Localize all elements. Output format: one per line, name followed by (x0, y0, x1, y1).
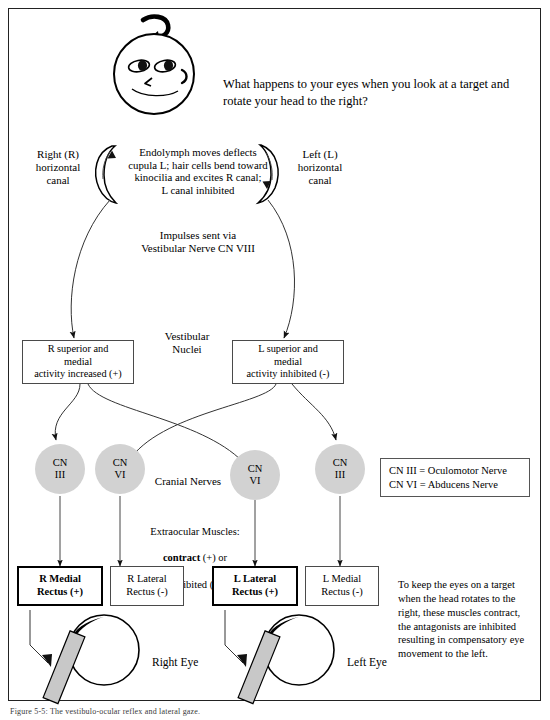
muscle-line1: R Medial (39, 573, 81, 584)
cn-circle-line1: CN (113, 457, 128, 468)
cn-circle-text: CN VI (248, 463, 263, 487)
extraocular-muscles-contract-line: contract (+) or (135, 551, 255, 564)
cranial-nerve-circle-l-cn3: CN III (315, 444, 365, 494)
muscle-box-text: L Lateral Rectus (+) (232, 573, 278, 598)
extraocular-muscles-title: Extraocular Muscles: (135, 525, 255, 538)
left-vestibular-nucleus-box: L superior and medial activity inhibited… (232, 340, 344, 384)
cranial-nerve-legend-box: CN III = Oculomotor Nerve CN VI = Abduce… (380, 458, 530, 497)
cn-circle-text: CN III (333, 457, 348, 481)
muscle-box-text: R Medial Rectus (+) (37, 573, 83, 598)
muscle-box-r-lateral-rectus: R Lateral Rectus (-) (110, 566, 184, 606)
cn-circle-line2: III (55, 469, 66, 480)
muscle-line1: R Lateral (127, 573, 166, 584)
right-vestibular-nucleus-box: R superior and medial activity increased… (22, 340, 134, 384)
legend-line-cn6: CN VI = Abducens Nerve (389, 478, 521, 492)
endolymph-description: Endolymph moves deflects cupula L; hair … (118, 146, 278, 197)
cranial-nerves-label: Cranial Nerves (145, 475, 231, 488)
right-canal-label: Right (R) horizontal canal (18, 148, 98, 187)
left-vestibular-nucleus-label: L superior and medial activity inhibited… (247, 343, 330, 380)
muscle-box-text: L Medial Rectus (-) (321, 573, 363, 598)
muscle-line2: Rectus (-) (126, 586, 168, 597)
right-vestibular-nucleus-label: R superior and medial activity increased… (34, 343, 122, 380)
vestibular-nuclei-label: Vestibular Nuclei (148, 330, 226, 356)
muscle-line1: L Lateral (234, 573, 276, 584)
question-text: What happens to your eyes when you look … (223, 76, 523, 110)
cranial-nerve-circle-l-cn6: CN VI (230, 450, 280, 500)
summary-text: To keep the eyes on a target when the he… (398, 578, 530, 661)
right-eye-label: Right Eye (152, 656, 198, 670)
muscle-box-text: R Lateral Rectus (-) (126, 573, 168, 598)
cn-circle-text: CN VI (113, 457, 128, 481)
cranial-nerve-circle-r-cn6: CN VI (95, 444, 145, 494)
muscle-line2: Rectus (-) (321, 586, 363, 597)
cn-circle-line1: CN (333, 457, 348, 468)
contract-suffix: (+) or (200, 552, 227, 563)
figure-page: What happens to your eyes when you look … (0, 0, 550, 720)
cn-circle-line1: CN (53, 457, 68, 468)
contract-bold: contract (163, 552, 200, 563)
muscle-line1: L Medial (323, 573, 361, 584)
muscle-box-r-medial-rectus: R Medial Rectus (+) (17, 566, 103, 606)
cn-circle-line2: VI (114, 469, 125, 480)
muscle-line2: Rectus (+) (232, 586, 278, 597)
figure-caption: Figure 5-5: The vestibulo-ocular reflex … (10, 707, 200, 716)
muscle-line2: Rectus (+) (37, 586, 83, 597)
cn-circle-line1: CN (248, 463, 263, 474)
cn-circle-line2: III (335, 469, 346, 480)
impulse-description: Impulses sent via Vestibular Nerve CN VI… (118, 229, 278, 255)
left-eye-label: Left Eye (347, 656, 387, 670)
cn-circle-line2: VI (249, 475, 260, 486)
legend-line-cn3: CN III = Oculomotor Nerve (389, 464, 521, 478)
muscle-box-l-medial-rectus: L Medial Rectus (-) (305, 566, 379, 606)
cranial-nerve-circle-r-cn3: CN III (35, 444, 85, 494)
cn-circle-text: CN III (53, 457, 68, 481)
left-canal-label: Left (L) horizontal canal (280, 148, 360, 187)
muscle-box-l-lateral-rectus: L Lateral Rectus (+) (212, 566, 298, 606)
